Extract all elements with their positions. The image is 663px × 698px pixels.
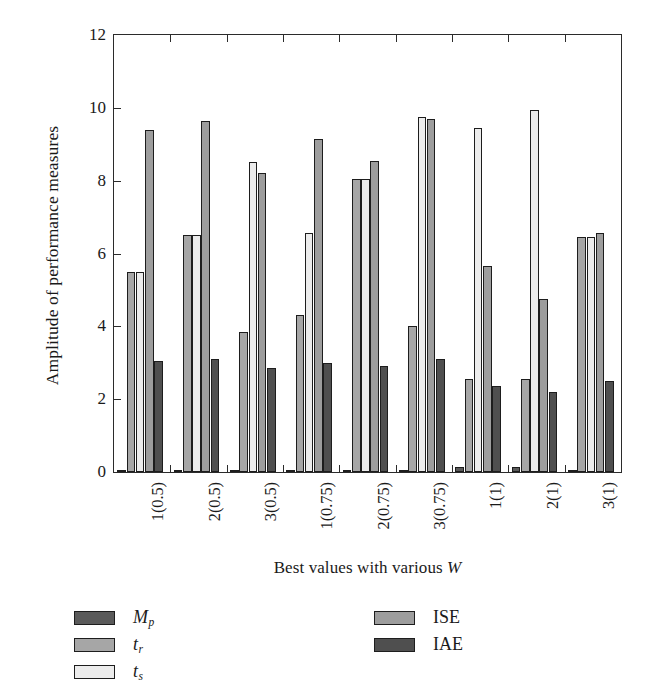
x-tick-mark-top bbox=[452, 35, 453, 42]
bar-mp-9 bbox=[568, 470, 577, 472]
y-tick-label: 8 bbox=[98, 171, 107, 191]
y-tick-label: 6 bbox=[98, 244, 107, 264]
bar-mp-8 bbox=[512, 467, 521, 472]
legend-item-tr[interactable]: tr bbox=[74, 631, 154, 658]
bar-ise-7 bbox=[483, 266, 492, 472]
bar-mp-1 bbox=[117, 470, 126, 472]
y-tick-label: 4 bbox=[98, 316, 107, 336]
legend-label-ts: ts bbox=[133, 661, 143, 682]
x-axis-title-text: Best values with various bbox=[274, 558, 447, 577]
legend-label-tr: tr bbox=[133, 634, 143, 655]
legend-swatch-iae bbox=[374, 638, 415, 652]
bar-ise-8 bbox=[539, 299, 548, 472]
y-tick-label: 0 bbox=[98, 462, 107, 482]
legend-swatch-tr bbox=[74, 638, 115, 652]
x-tick-label-5: 2(0.75) bbox=[374, 482, 394, 529]
bar-ts-2 bbox=[192, 235, 201, 472]
x-tick-mark bbox=[396, 465, 397, 472]
x-tick-label-4: 1(0.75) bbox=[317, 482, 337, 529]
bar-iae-2 bbox=[211, 359, 220, 472]
x-tick-mark-top bbox=[283, 35, 284, 42]
x-tick-mark bbox=[452, 465, 453, 472]
legend-label-mp: Mp bbox=[133, 607, 154, 628]
x-tick-mark-top bbox=[565, 35, 566, 42]
bar-iae-8 bbox=[549, 392, 558, 472]
bar-ise-4 bbox=[314, 139, 323, 472]
bar-ts-9 bbox=[587, 237, 596, 472]
x-tick-mark-top bbox=[508, 35, 509, 42]
bar-iae-3 bbox=[267, 368, 276, 472]
x-tick-mark-top bbox=[170, 35, 171, 42]
bar-tr-7 bbox=[465, 379, 474, 472]
legend-label-ise: ISE bbox=[433, 607, 460, 628]
bar-tr-3 bbox=[239, 332, 248, 472]
y-tick-label: 2 bbox=[98, 389, 107, 409]
x-tick-mark bbox=[508, 465, 509, 472]
bar-iae-7 bbox=[492, 386, 501, 472]
bar-tr-4 bbox=[296, 315, 305, 472]
x-tick-mark bbox=[170, 465, 171, 472]
bar-ts-6 bbox=[418, 117, 427, 472]
bar-tr-5 bbox=[352, 179, 361, 472]
legend-label-iae: IAE bbox=[433, 634, 463, 655]
y-axis-title: Amplitude of performance measures bbox=[42, 46, 63, 466]
legend-column-2: ISEIAE bbox=[374, 604, 463, 658]
y-tick-mark bbox=[114, 326, 121, 327]
bar-ise-2 bbox=[201, 121, 210, 472]
bar-iae-6 bbox=[436, 359, 445, 472]
y-tick-label: 12 bbox=[89, 25, 106, 45]
x-tick-label-9: 3(1) bbox=[599, 482, 619, 509]
y-tick-mark bbox=[114, 254, 121, 255]
legend-item-ise[interactable]: ISE bbox=[374, 604, 463, 631]
legend-item-mp[interactable]: Mp bbox=[74, 604, 154, 631]
bar-ise-9 bbox=[596, 233, 605, 472]
bar-ts-1 bbox=[136, 272, 145, 472]
bar-mp-5 bbox=[343, 470, 352, 472]
bar-tr-6 bbox=[408, 326, 417, 472]
bar-mp-4 bbox=[286, 470, 295, 472]
bar-ise-5 bbox=[370, 161, 379, 472]
x-tick-mark bbox=[227, 465, 228, 472]
bar-mp-6 bbox=[399, 470, 408, 472]
legend: Mptrts ISEIAE bbox=[74, 604, 504, 692]
x-axis-title-symbol: W bbox=[447, 558, 461, 577]
bar-ts-7 bbox=[474, 128, 483, 472]
bar-mp-2 bbox=[174, 470, 183, 472]
x-tick-mark-top bbox=[339, 35, 340, 42]
bar-mp-7 bbox=[455, 467, 464, 472]
bar-tr-8 bbox=[521, 379, 530, 472]
legend-swatch-ise bbox=[374, 611, 415, 625]
x-tick-label-1: 1(0.5) bbox=[148, 482, 168, 521]
x-tick-mark bbox=[339, 465, 340, 472]
bar-tr-1 bbox=[127, 272, 136, 472]
legend-swatch-ts bbox=[74, 665, 115, 679]
x-axis-title: Best values with various W bbox=[113, 558, 622, 578]
x-tick-label-3: 3(0.5) bbox=[261, 482, 281, 521]
legend-swatch-mp bbox=[74, 611, 115, 625]
bar-ise-1 bbox=[145, 130, 154, 472]
bar-iae-1 bbox=[154, 361, 163, 472]
y-tick-mark bbox=[114, 181, 121, 182]
bar-chart-figure: Amplitude of performance measures Best v… bbox=[0, 0, 663, 698]
plot-inner: 024681012 bbox=[114, 35, 621, 472]
y-tick-mark bbox=[114, 108, 121, 109]
bar-iae-4 bbox=[323, 363, 332, 472]
bar-tr-9 bbox=[577, 237, 586, 472]
bar-ise-3 bbox=[258, 173, 267, 472]
bar-ts-3 bbox=[249, 162, 258, 472]
legend-column-1: Mptrts bbox=[74, 604, 154, 685]
x-tick-mark bbox=[283, 465, 284, 472]
legend-item-ts[interactable]: ts bbox=[74, 658, 154, 685]
bar-ts-8 bbox=[530, 110, 539, 472]
x-tick-mark bbox=[565, 465, 566, 472]
y-tick-mark bbox=[114, 399, 121, 400]
bar-ts-4 bbox=[305, 233, 314, 472]
bar-iae-5 bbox=[380, 366, 389, 472]
bar-iae-9 bbox=[605, 381, 614, 472]
legend-item-iae[interactable]: IAE bbox=[374, 631, 463, 658]
x-tick-label-7: 1(1) bbox=[486, 482, 506, 509]
plot-area: 024681012 bbox=[113, 34, 622, 473]
bar-tr-2 bbox=[183, 235, 192, 472]
bar-ts-5 bbox=[361, 179, 370, 472]
x-tick-label-8: 2(1) bbox=[543, 482, 563, 509]
